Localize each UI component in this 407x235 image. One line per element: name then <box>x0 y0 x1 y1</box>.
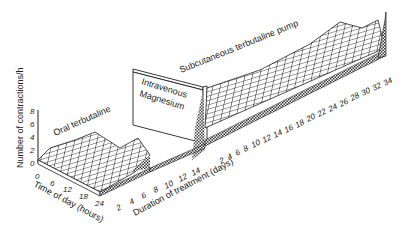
y2-tick-8: 8 <box>242 143 251 153</box>
z-tick-4: 4 <box>30 133 35 142</box>
y2-tick-30: 30 <box>360 85 373 97</box>
surface-phase-oral <box>38 132 150 196</box>
y2-tick-22: 22 <box>315 106 328 119</box>
y2-tick-28: 28 <box>348 90 361 103</box>
y2-tick-12: 12 <box>261 132 274 144</box>
z-tick-8: 8 <box>30 107 35 116</box>
x-tick-24: 24 <box>94 199 104 208</box>
y2-tick-24: 24 <box>326 101 339 114</box>
y1-tick-6: 6 <box>140 190 149 200</box>
y2-tick-10: 10 <box>250 137 263 149</box>
y2-tick-14: 14 <box>272 127 285 139</box>
y2-tick-20: 20 <box>304 111 317 124</box>
y2-tick-18: 18 <box>294 117 307 129</box>
y1-tick-2: 2 <box>114 202 124 213</box>
annotation-oral-terbutaline: Oral terbutaline <box>52 104 112 138</box>
y2-tick-34: 34 <box>382 75 395 87</box>
z-tick-0: 0 <box>30 159 35 168</box>
y2-tick-26: 26 <box>337 96 350 109</box>
z-tick-2: 2 <box>29 146 35 155</box>
surface-chart: 8 6 4 2 0 Number of contractions/h Intra… <box>0 0 407 235</box>
y2-tick-16: 16 <box>283 122 296 134</box>
z-axis-title: Number of contractions/h <box>15 67 25 168</box>
y1-tick-4: 4 <box>128 196 137 206</box>
y2-tick-32: 32 <box>371 80 384 92</box>
x-tick-18: 18 <box>79 192 88 201</box>
z-tick-6: 6 <box>30 120 35 129</box>
y2-tick-6: 6 <box>234 147 243 157</box>
z-axis: 8 6 4 2 0 Number of contractions/h <box>15 67 38 168</box>
